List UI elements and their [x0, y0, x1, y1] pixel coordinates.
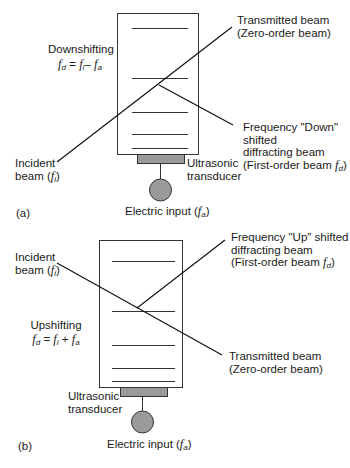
electric-input-label-a: Electric input (fa)	[125, 205, 210, 222]
incident-beam-label-b: Incident beam (fi)	[15, 251, 60, 280]
mode-label-b: Upshifting fd = fi + fa	[24, 319, 88, 349]
electric-input-label-b: Electric input (fa)	[107, 438, 192, 455]
rf-source-a	[150, 179, 172, 201]
transmitted-beam-label-b: Transmitted beam (Zero-order beam)	[229, 350, 323, 375]
mode-title-b: Upshifting	[24, 319, 88, 332]
diffracted-beam-b	[137, 240, 225, 308]
equation-b: fd = fi + fa	[24, 333, 88, 350]
acoustic-wavefronts-a	[132, 29, 188, 149]
transmitted-beam-label-a: Transmitted beam (Zero-order beam)	[237, 14, 331, 39]
diffracted-beam-a	[159, 85, 233, 125]
transducer-label-b: Ultrasonic transducer	[68, 390, 122, 415]
incident-beam-label-a: Incident beam (fi)	[15, 157, 60, 186]
equation-a: fd = fi– fa	[48, 58, 112, 75]
diffracted-beam-label-a: Frequency "Down" shifted diffracting bea…	[243, 121, 347, 175]
ultrasonic-transducer-a	[138, 155, 185, 164]
mode-title-a: Downshifting	[48, 43, 112, 56]
acoustic-wavefronts-b	[112, 262, 175, 382]
panel-tag-a: (a)	[16, 207, 30, 220]
bragg-cell-b	[100, 241, 183, 388]
ultrasonic-transducer-b	[121, 388, 168, 397]
transducer-label-a: Ultrasonic transducer	[187, 157, 241, 182]
diffracted-beam-label-b: Frequency "Up" shifted diffracting beam …	[231, 231, 348, 273]
panel-tag-b: (b)	[18, 440, 32, 453]
rf-source-b	[132, 411, 154, 433]
mode-label-a: Downshifting fd = fi– fa	[48, 43, 112, 74]
